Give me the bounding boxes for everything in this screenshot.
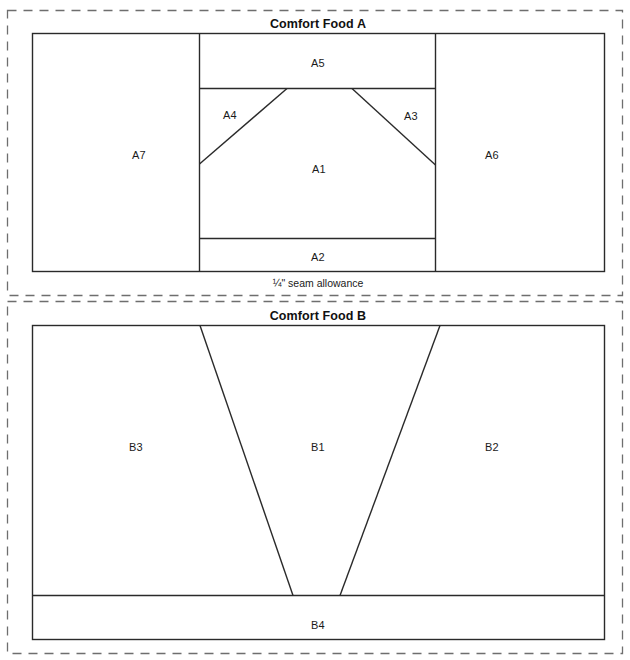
piece-label-a5: A5 bbox=[311, 58, 325, 69]
pattern-geometry bbox=[0, 0, 630, 660]
piece-label-a2: A2 bbox=[311, 252, 325, 263]
piece-label-b1: B1 bbox=[311, 442, 325, 453]
pattern-sheet: Comfort Food A A5 A4 A3 A1 A7 A6 A2 ¼" s… bbox=[0, 0, 630, 660]
piece-label-a3: A3 bbox=[404, 111, 418, 122]
block-outline-b bbox=[33, 326, 605, 640]
piece-label-b3: B3 bbox=[129, 442, 143, 453]
piece-label-a4: A4 bbox=[223, 110, 237, 121]
piece-label-a6: A6 bbox=[485, 150, 499, 161]
seam-allowance-note: ¼" seam allowance bbox=[273, 278, 364, 289]
piece-label-a1: A1 bbox=[312, 164, 326, 175]
piece-label-b2: B2 bbox=[485, 442, 499, 453]
block-b-title: Comfort Food B bbox=[270, 310, 367, 323]
piece-label-a7: A7 bbox=[132, 150, 146, 161]
block-a-title: Comfort Food A bbox=[270, 18, 366, 31]
block-outline-a bbox=[33, 34, 605, 272]
piece-label-b4: B4 bbox=[311, 620, 325, 631]
